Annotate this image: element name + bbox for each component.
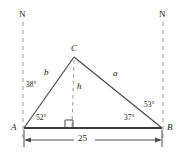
dimension-arrow-left-icon — [24, 137, 31, 142]
dimension-label: 25 — [78, 134, 87, 143]
north-label-right: N — [159, 10, 166, 19]
dimension-arrow-right-icon — [155, 137, 162, 142]
vertex-label-B: B — [167, 123, 173, 132]
angle-label-bearing-left: 38° — [26, 81, 37, 89]
vertex-label-C: C — [71, 44, 77, 53]
side-label-b: b — [44, 68, 49, 77]
angle-label-interior-A: 52° — [36, 114, 47, 122]
triangle-bearing-diagram: N N A B C b a h 38° 52° 37° 53° 25 — [0, 0, 179, 155]
vertex-label-A: A — [11, 123, 17, 132]
altitude-line-h — [72, 60, 74, 127]
north-label-left: N — [19, 10, 26, 19]
side-label-a: a — [113, 69, 118, 78]
triangle-side-b — [24, 57, 74, 128]
angle-label-bearing-right: 53° — [144, 101, 155, 109]
angle-label-interior-B: 37° — [124, 114, 135, 122]
triangle-side-a — [74, 57, 162, 128]
diagram-canvas — [0, 0, 179, 155]
side-label-h: h — [77, 82, 82, 91]
